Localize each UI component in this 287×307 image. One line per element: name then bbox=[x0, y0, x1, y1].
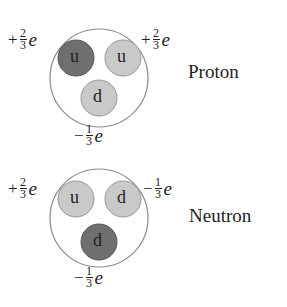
sign: + bbox=[8, 30, 18, 50]
unit: e bbox=[29, 178, 37, 200]
denominator: 3 bbox=[86, 136, 92, 147]
neutron-quark-1-flavor: u bbox=[70, 187, 79, 208]
proton-charge-1: + 23 e bbox=[8, 28, 37, 51]
denominator: 3 bbox=[155, 189, 161, 200]
neutron-quark-2-flavor: d bbox=[117, 187, 126, 208]
fraction: 13 bbox=[86, 124, 93, 147]
unit: e bbox=[95, 267, 103, 289]
denominator: 3 bbox=[153, 40, 159, 51]
proton-quark-1-flavor: u bbox=[70, 46, 79, 67]
unit: e bbox=[29, 29, 37, 51]
fraction: 13 bbox=[86, 266, 93, 289]
proton-quark-3-flavor: d bbox=[93, 86, 102, 107]
neutron-diagram bbox=[50, 169, 148, 267]
sign: − bbox=[74, 268, 84, 288]
denominator: 3 bbox=[20, 189, 26, 200]
neutron-charge-3: − 13 e bbox=[74, 266, 103, 289]
denominator: 3 bbox=[20, 40, 26, 51]
sign: + bbox=[8, 179, 18, 199]
sign: + bbox=[141, 30, 151, 50]
denominator: 3 bbox=[86, 278, 92, 289]
neutron-quark-3-flavor: d bbox=[93, 230, 102, 251]
proton-charge-3: − 13 e bbox=[74, 124, 103, 147]
unit: e bbox=[164, 178, 172, 200]
proton-charge-2: + 23 e bbox=[141, 28, 170, 51]
fraction: 23 bbox=[20, 28, 27, 51]
proton-label: Proton bbox=[188, 61, 239, 83]
proton-quark-2-flavor: u bbox=[117, 46, 126, 67]
proton-diagram bbox=[50, 29, 148, 127]
sign: − bbox=[74, 126, 84, 146]
fraction: 23 bbox=[20, 177, 27, 200]
unit: e bbox=[162, 29, 170, 51]
fraction: 13 bbox=[155, 177, 162, 200]
neutron-charge-2: − 13 e bbox=[143, 177, 172, 200]
neutron-charge-1: + 23 e bbox=[8, 177, 37, 200]
sign: − bbox=[143, 179, 153, 199]
unit: e bbox=[95, 125, 103, 147]
fraction: 23 bbox=[153, 28, 160, 51]
neutron-label: Neutron bbox=[189, 205, 251, 227]
